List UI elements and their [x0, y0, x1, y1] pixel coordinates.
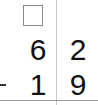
minuend-tens-digit: 6	[26, 35, 50, 65]
place-value-divider	[56, 0, 57, 105]
subtrahend-ones-digit: 9	[66, 70, 90, 100]
answer-line	[0, 100, 98, 101]
subtrahend-tens-digit: 1	[26, 70, 50, 100]
minuend-ones-digit: 2	[66, 35, 90, 65]
borrow-answer-box[interactable]	[23, 5, 43, 26]
minus-sign-icon	[0, 84, 6, 86]
